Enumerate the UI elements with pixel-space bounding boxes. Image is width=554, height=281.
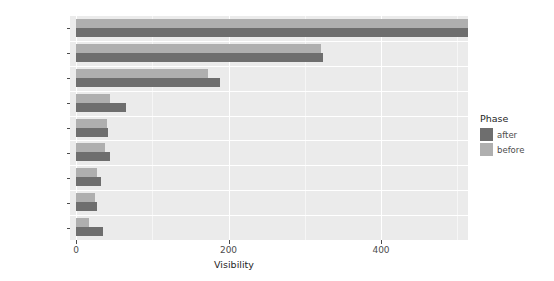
legend-title: Phase — [480, 113, 550, 124]
x-tick-mark — [76, 240, 77, 244]
x-tick-mark — [381, 240, 382, 244]
plot-panel — [70, 16, 468, 240]
bar-after-education[interactable] — [76, 177, 101, 186]
legend-item-after[interactable]: after — [480, 127, 550, 142]
gridline-x-major — [381, 16, 382, 240]
bar-after-publisher[interactable] — [76, 103, 126, 112]
x-tick-mark — [229, 240, 230, 244]
legend-item-before[interactable]: before — [480, 142, 550, 157]
bar-before-reference[interactable] — [76, 193, 95, 202]
gridline-y-major — [70, 215, 468, 216]
legend-label-before: before — [497, 145, 524, 155]
gridline-y-major — [70, 165, 468, 166]
bar-before-other[interactable] — [76, 19, 468, 28]
gridline-y-major — [70, 140, 468, 141]
bar-after-other[interactable] — [76, 28, 468, 37]
bar-before-martech[interactable] — [76, 69, 208, 78]
legend-swatch-after — [480, 128, 493, 141]
y-tick-mark — [67, 103, 71, 104]
legend-label-after: after — [497, 130, 517, 140]
y-tick-mark — [67, 78, 71, 79]
bar-before-social_media[interactable] — [76, 218, 89, 227]
y-tick-mark — [67, 203, 71, 204]
x-tick-label-400: 400 — [372, 245, 389, 255]
y-tick-mark — [67, 178, 71, 179]
bar-before-education[interactable] — [76, 168, 97, 177]
y-tick-mark — [67, 153, 71, 154]
bar-before-publisher[interactable] — [76, 94, 110, 103]
bar-after-search[interactable] — [76, 53, 323, 62]
bar-before-consulting[interactable] — [76, 119, 107, 128]
x-tick-label-0: 0 — [73, 245, 79, 255]
bar-after-reviews[interactable] — [76, 152, 110, 161]
y-tick-mark — [67, 128, 71, 129]
chart-figure: othersearchmartechpublisherconsultingrev… — [0, 0, 554, 281]
legend: Phase after before — [480, 113, 550, 157]
y-tick-mark — [67, 53, 71, 54]
bar-before-reviews[interactable] — [76, 143, 105, 152]
bar-after-social_media[interactable] — [76, 227, 103, 236]
bar-after-reference[interactable] — [76, 202, 97, 211]
legend-swatch-before — [480, 143, 493, 156]
bar-after-martech[interactable] — [76, 78, 220, 87]
y-tick-mark — [67, 228, 71, 229]
bar-after-consulting[interactable] — [76, 128, 108, 137]
gridline-y-major — [70, 41, 468, 42]
x-tick-label-200: 200 — [220, 245, 237, 255]
clipped-header-text — [0, 0, 554, 7]
gridline-y-major — [70, 91, 468, 92]
gridline-y-major — [70, 66, 468, 67]
x-axis-title: Visibility — [0, 259, 554, 270]
bar-before-search[interactable] — [76, 44, 321, 53]
gridline-y-major — [70, 190, 468, 191]
gridline-x-minor — [457, 16, 458, 240]
y-tick-mark — [67, 28, 71, 29]
gridline-y-major — [70, 116, 468, 117]
